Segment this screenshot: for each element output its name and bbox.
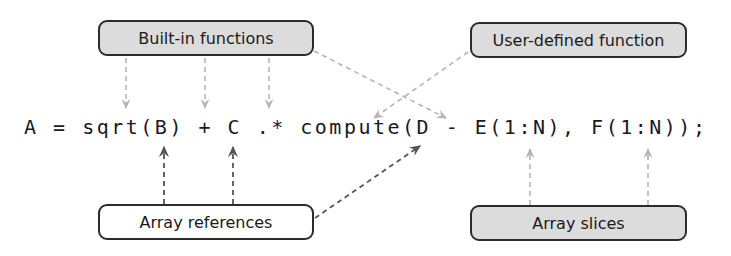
user-defined-function-label-box: User-defined function	[470, 22, 687, 58]
user-defined-function-label: User-defined function	[493, 31, 665, 50]
arrow-builtin-minus	[314, 51, 446, 118]
code-line: A = sqrt(B) + C .* compute(D - E(1:N), F…	[24, 113, 707, 141]
arrow-userdef-compute	[374, 52, 468, 118]
builtin-functions-label: Built-in functions	[138, 29, 273, 48]
array-references-label-box: Array references	[98, 204, 314, 240]
builtin-functions-label-box: Built-in functions	[98, 20, 314, 56]
arrow-arrayref-d	[315, 146, 420, 218]
array-references-label: Array references	[140, 213, 273, 232]
array-slices-label: Array slices	[532, 214, 624, 233]
array-slices-label-box: Array slices	[470, 205, 687, 241]
